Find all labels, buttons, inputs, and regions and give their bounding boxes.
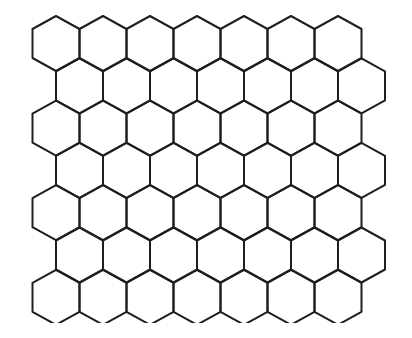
- hexagon-cells: [33, 16, 386, 325]
- hexagon-cell: [33, 270, 80, 325]
- hexagon-cell: [80, 270, 127, 325]
- hexagon-cell: [221, 270, 268, 325]
- hexagon-cell: [127, 270, 174, 325]
- hexagon-grid-diagram: [0, 0, 412, 338]
- hexagon-cell: [174, 270, 221, 325]
- hexagon-cell: [268, 270, 315, 325]
- hexagon-cell: [315, 270, 362, 325]
